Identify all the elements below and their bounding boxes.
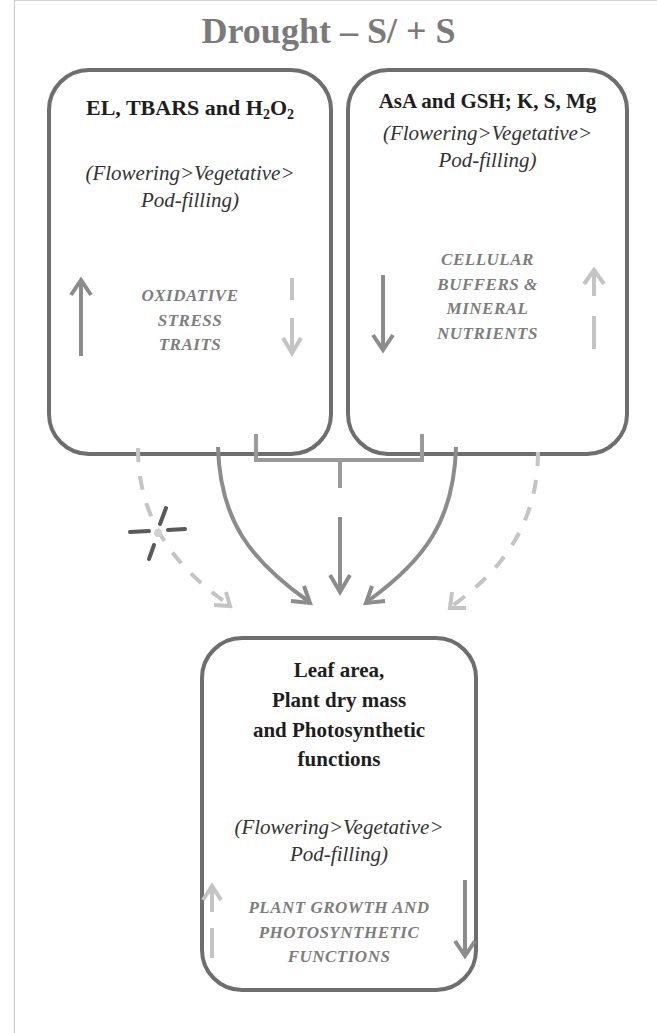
- bracket-connector: [256, 434, 422, 488]
- arrow-down-icon: [455, 880, 475, 956]
- dashed-arrow-down-icon: [283, 278, 301, 353]
- dashed-curved-arrow-right-icon: [450, 452, 538, 608]
- arrow-up-icon: [71, 280, 91, 356]
- dashed-curved-arrow-left-icon: [138, 448, 230, 606]
- curved-arrow-right-icon: [366, 447, 456, 603]
- connectors-layer: [0, 0, 657, 1033]
- arrow-down-icon: [373, 275, 393, 350]
- blocked-marker-icon: [130, 508, 185, 559]
- dashed-arrow-up-icon: [203, 886, 221, 958]
- curved-arrow-left-icon: [218, 447, 310, 603]
- dashed-arrow-up-icon: [584, 270, 604, 349]
- arrow-down-center-icon: [330, 517, 350, 592]
